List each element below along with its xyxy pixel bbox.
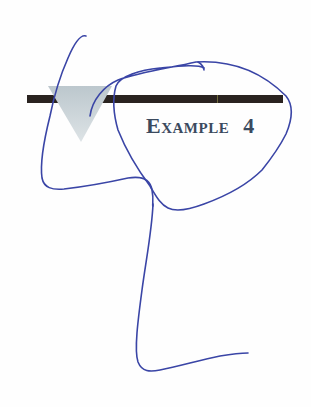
pen-annotation-icon — [0, 0, 311, 407]
heading-label: Example — [146, 113, 229, 138]
header-rule — [27, 95, 283, 103]
header-rule-seam — [217, 95, 218, 103]
triangle-marker-icon — [0, 0, 311, 407]
heading-number: 4 — [243, 113, 255, 138]
section-heading: Example4 — [146, 113, 255, 139]
document-page: Example4 — [0, 0, 311, 407]
